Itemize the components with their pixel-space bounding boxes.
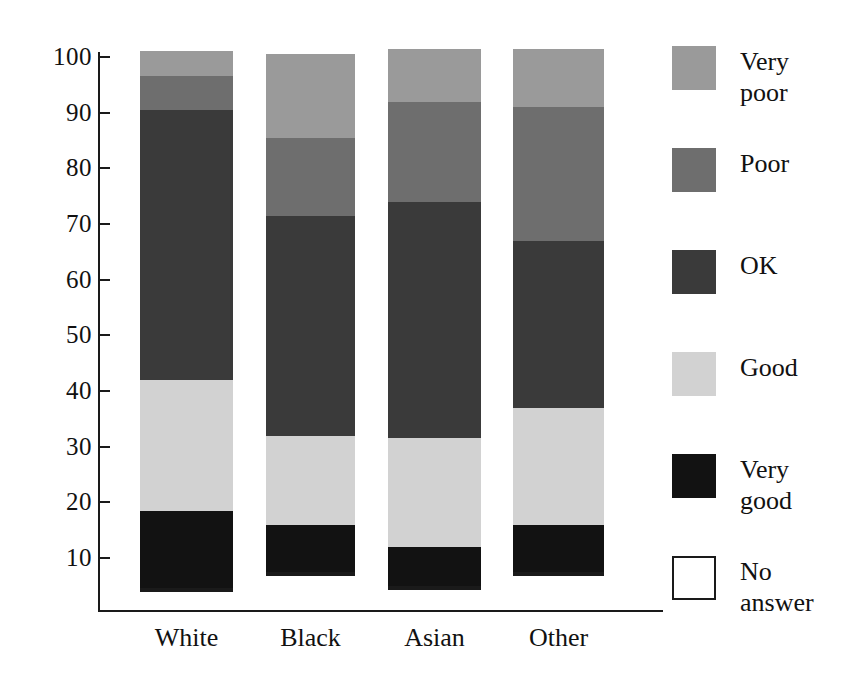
- y-tick-label-text: 70: [34, 211, 92, 236]
- bar-segment-very-poor[interactable]: [140, 51, 233, 76]
- bar-other[interactable]: [513, 49, 604, 610]
- bar-segment-no-answer[interactable]: [140, 588, 233, 592]
- plot-area: 100908070605040302010 WhiteBlackAsianOth…: [0, 0, 680, 682]
- y-tick-label-text: 20: [34, 489, 92, 514]
- bar-segment-good[interactable]: [513, 408, 604, 525]
- y-tick-label: 40: [20, 378, 92, 403]
- y-tick-label: 70: [20, 211, 92, 236]
- y-tick-label-text: 50: [34, 322, 92, 347]
- y-tick-label-text: 80: [34, 155, 92, 180]
- bar-segment-poor[interactable]: [140, 76, 233, 109]
- legend-label-text: Very poor: [740, 46, 789, 108]
- legend-label-text: Poor: [740, 148, 789, 179]
- y-tick-label: 80: [20, 155, 92, 180]
- legend-item-very-good[interactable]: Very good: [672, 454, 853, 516]
- bar-segment-ok[interactable]: [266, 216, 355, 436]
- x-axis-line: [98, 610, 663, 612]
- bar-asian[interactable]: [388, 49, 481, 610]
- legend-label-text: Good: [740, 352, 798, 383]
- y-tick-mark: [98, 279, 110, 281]
- y-tick-label: 30: [20, 434, 92, 459]
- bar-segment-ok[interactable]: [140, 110, 233, 380]
- legend-swatch-ok: [672, 250, 716, 294]
- y-tick-mark: [98, 501, 110, 503]
- legend-swatch-very-good: [672, 454, 716, 498]
- y-tick-label: 20: [20, 489, 92, 514]
- y-tick-mark: [98, 167, 110, 169]
- y-tick-mark: [98, 390, 110, 392]
- y-tick-label: 10: [20, 545, 92, 570]
- legend-swatch-very-poor: [672, 46, 716, 90]
- y-tick-label-text: 90: [34, 100, 92, 125]
- bar-segment-good[interactable]: [266, 436, 355, 525]
- bar-segment-no-answer[interactable]: [513, 572, 604, 576]
- bar-segment-ok[interactable]: [388, 202, 481, 439]
- bar-black[interactable]: [266, 54, 355, 610]
- bar-segment-poor[interactable]: [388, 102, 481, 202]
- legend-label-text: Very good: [740, 454, 792, 516]
- bar-segment-poor[interactable]: [266, 138, 355, 216]
- y-tick-label: 100: [20, 44, 92, 69]
- bar-segment-very-poor[interactable]: [513, 49, 604, 107]
- legend-swatch-no-answer: [672, 556, 716, 600]
- y-tick-mark: [98, 223, 110, 225]
- y-tick-label-text: 40: [34, 378, 92, 403]
- legend-swatch-good: [672, 352, 716, 396]
- bar-segment-very-good[interactable]: [266, 525, 355, 572]
- y-tick-label: 50: [20, 322, 92, 347]
- y-tick-mark: [98, 334, 110, 336]
- legend-item-poor[interactable]: Poor: [672, 148, 853, 192]
- bar-segment-good[interactable]: [388, 438, 481, 547]
- bar-segment-very-poor[interactable]: [266, 54, 355, 138]
- bar-segment-very-poor[interactable]: [388, 49, 481, 102]
- bar-segment-ok[interactable]: [513, 241, 604, 408]
- legend-label-text: OK: [740, 250, 778, 281]
- legend-item-very-poor[interactable]: Very poor: [672, 46, 853, 108]
- y-tick-label-text: 10: [34, 545, 92, 570]
- bar-segment-very-good[interactable]: [388, 547, 481, 586]
- y-tick-label-text: 30: [34, 434, 92, 459]
- legend-item-no-answer[interactable]: No answer: [672, 556, 853, 618]
- bar-segment-no-answer[interactable]: [266, 572, 355, 576]
- y-tick-mark: [98, 112, 110, 114]
- y-tick-label: 90: [20, 100, 92, 125]
- bar-segment-good[interactable]: [140, 380, 233, 511]
- y-tick-mark: [98, 56, 110, 58]
- legend-swatch-poor: [672, 148, 716, 192]
- chart-legend: Very poorPoorOKGoodVery goodNo answer: [672, 36, 853, 636]
- category-label-other: Other: [483, 622, 634, 654]
- y-tick-label-text: 100: [34, 44, 92, 69]
- bar-segment-no-answer[interactable]: [388, 586, 481, 590]
- legend-item-good[interactable]: Good: [672, 352, 853, 396]
- bar-segment-poor[interactable]: [513, 107, 604, 241]
- y-axis-line: [98, 52, 100, 612]
- bar-segment-very-good[interactable]: [513, 525, 604, 572]
- legend-item-ok[interactable]: OK: [672, 250, 853, 294]
- stacked-bar-chart: 100908070605040302010 WhiteBlackAsianOth…: [0, 0, 853, 682]
- bar-segment-very-good[interactable]: [140, 511, 233, 588]
- y-tick-label: 60: [20, 267, 92, 292]
- bar-white[interactable]: [140, 51, 233, 610]
- y-tick-mark: [98, 446, 110, 448]
- legend-label-text: No answer: [740, 556, 814, 618]
- y-tick-label-text: 60: [34, 267, 92, 292]
- y-tick-mark: [98, 557, 110, 559]
